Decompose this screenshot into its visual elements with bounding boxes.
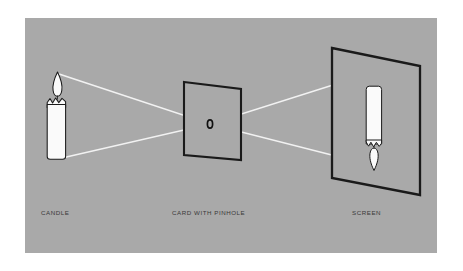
diagram-canvas: CANDLE CARD WITH PINHOLE SCREEN <box>0 0 463 271</box>
card-with-pinhole-object <box>184 82 241 160</box>
inverted-candle-body <box>366 86 381 144</box>
pinhole-aperture <box>207 120 212 128</box>
label-candle: CANDLE <box>41 209 69 216</box>
label-screen: SCREEN <box>352 209 381 216</box>
screen-object <box>332 48 420 195</box>
inverted-candle-wax-rim <box>366 140 381 147</box>
pinhole-camera-figure: CANDLE CARD WITH PINHOLE SCREEN <box>0 0 463 271</box>
label-card-with-pinhole: CARD WITH PINHOLE <box>172 209 245 216</box>
candle-body <box>47 105 65 160</box>
